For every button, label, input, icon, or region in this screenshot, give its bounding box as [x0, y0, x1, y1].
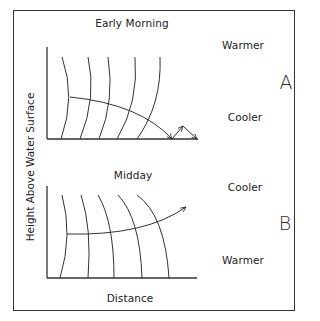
panel-a-reflected-ray-down [183, 126, 197, 139]
panel-b-wavefront-4 [118, 195, 142, 278]
panel-a-title: Early Morning [95, 17, 169, 29]
panel-a-reflected-ray-up [172, 126, 183, 139]
x-axis-label: Distance [107, 292, 154, 304]
panel-a-wavefront-1 [61, 57, 69, 139]
panel-a-bottom-temperature-label: Cooler [228, 111, 262, 123]
y-axis-label: Height Above Water Surface [24, 93, 36, 242]
panel-a-wavefront-4 [117, 57, 136, 139]
panel-b-letter: B [279, 212, 292, 234]
panel-a-wavefront-3 [99, 57, 110, 139]
panel-a-plot [47, 47, 198, 139]
panel-b-bottom-temperature-label: Warmer [222, 254, 264, 266]
panel-b-title: Midday [114, 169, 153, 181]
panel-b-wavefront-3 [98, 195, 114, 278]
panel-a-wavefront-5 [137, 57, 160, 139]
panel-a-letter: A [279, 71, 292, 93]
panel-a-top-temperature-label: Warmer [222, 39, 264, 51]
panel-b-plot [47, 186, 197, 278]
panel-b-wavefront-2 [81, 195, 89, 278]
panel-b-top-temperature-label: Cooler [228, 181, 262, 193]
panel-b-wavefront-1 [60, 195, 67, 278]
